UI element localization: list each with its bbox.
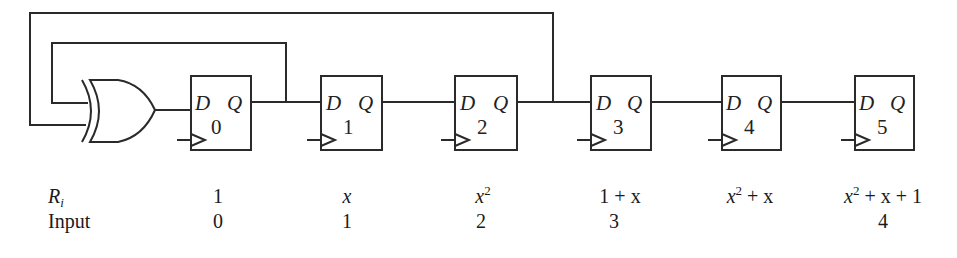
ri-value-4: x2 + x: [727, 185, 774, 207]
svg-text:Q: Q: [227, 91, 242, 115]
ri-value-2: x2: [475, 185, 490, 207]
ri-value-3: 1 + x: [599, 185, 640, 207]
svg-text:2: 2: [477, 115, 488, 139]
flip-flop-5: D Q 5: [841, 76, 914, 150]
svg-text:5: 5: [877, 115, 888, 139]
svg-text:Q: Q: [890, 91, 905, 115]
ri-label: Ri: [48, 185, 64, 207]
svg-text:D: D: [858, 91, 874, 115]
input-value-3: 3: [609, 210, 619, 232]
input-row: Input 0 1 2 3 4: [0, 210, 957, 234]
flip-flop-3: D Q 3: [577, 76, 651, 150]
svg-text:Q: Q: [627, 91, 642, 115]
svg-text:D: D: [595, 91, 611, 115]
input-value-0: 0: [213, 210, 223, 232]
xor-gate-icon: [82, 80, 155, 142]
input-value-2: 2: [476, 210, 486, 232]
svg-text:1: 1: [343, 115, 354, 139]
flip-flop-4: D Q 4: [708, 76, 781, 150]
lfsr-circuit: D Q 0 D Q 1 D Q 2 D Q 3: [0, 0, 957, 170]
svg-text:4: 4: [744, 115, 755, 139]
ri-value-0: 1: [213, 185, 223, 207]
svg-text:0: 0: [211, 115, 222, 139]
svg-text:3: 3: [613, 115, 624, 139]
flip-flop-1: D Q 1: [307, 76, 382, 150]
flip-flop-2: D Q 2: [441, 76, 517, 150]
input-label: Input: [48, 210, 90, 232]
input-value-5: 4: [878, 210, 888, 232]
svg-text:D: D: [459, 91, 475, 115]
svg-text:D: D: [325, 91, 341, 115]
svg-text:D: D: [725, 91, 741, 115]
svg-text:D: D: [194, 91, 210, 115]
ri-value-5: x2 + x + 1: [844, 185, 922, 207]
ri-value-1: x: [343, 185, 352, 207]
svg-text:Q: Q: [358, 91, 373, 115]
flip-flop-0: D Q 0: [177, 76, 251, 150]
svg-text:Q: Q: [757, 91, 772, 115]
ri-row: Ri 1 x x2 1 + x x2 + x x2 + x + 1: [0, 185, 957, 209]
svg-text:Q: Q: [493, 91, 508, 115]
input-value-1: 1: [342, 210, 352, 232]
